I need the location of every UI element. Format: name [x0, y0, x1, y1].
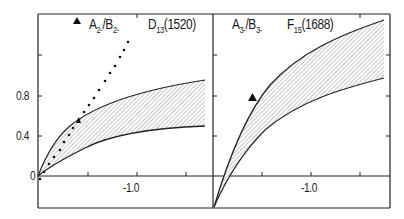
y-tick-label-0.4: 0.4	[16, 130, 29, 142]
left-band	[38, 80, 205, 176]
legend-triangle-icon	[73, 17, 81, 24]
left-panel-title-resonance: D13(1520)	[148, 17, 196, 35]
right-band	[214, 20, 384, 207]
left-panel-title-ratio: A2-/B2-	[89, 17, 119, 35]
right-triangle-point	[248, 93, 257, 101]
x-tick-label-left: -1.0	[123, 182, 139, 194]
x-tick-label-right: -1.0	[301, 182, 317, 194]
figure	[0, 0, 404, 219]
y-tick-label-0.8: 0.8	[16, 90, 29, 102]
y-tick-label-0: 0	[30, 170, 35, 182]
right-panel-title-ratio: A3-/B3-	[232, 17, 262, 35]
left-panel	[38, 14, 213, 208]
right-panel-title-resonance: F15(1688)	[287, 17, 333, 35]
right-panel	[213, 14, 390, 208]
